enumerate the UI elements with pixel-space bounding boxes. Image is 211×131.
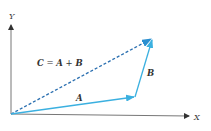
eq-plus: + — [63, 58, 76, 68]
eq-equals: = — [44, 58, 57, 68]
vector-b-label: B — [146, 68, 154, 78]
y-axis-label: Y — [9, 12, 15, 21]
vector-a — [11, 97, 134, 114]
vector-a-label: A — [75, 93, 83, 103]
eq-b: B — [74, 58, 82, 68]
x-axis-label: X — [193, 113, 200, 122]
vector-c-label: C = A + B — [37, 58, 83, 68]
vector-addition-diagram: Y X C = A + B A B — [0, 0, 211, 131]
x-axis — [11, 114, 189, 116]
